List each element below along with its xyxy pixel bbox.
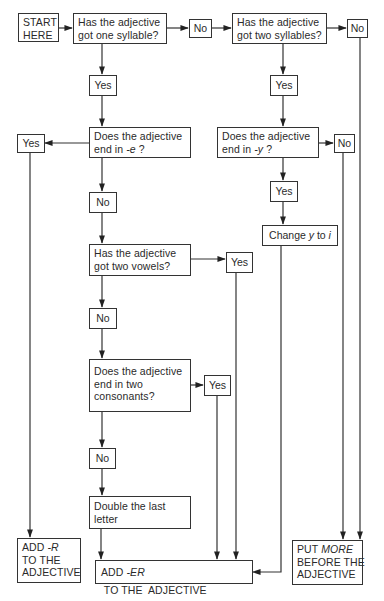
- start-label-line2: HERE: [23, 29, 54, 42]
- question-text: Has the adjective: [78, 16, 162, 29]
- connector-lines: [0, 0, 384, 601]
- question-text-line2: end in -e ?: [94, 143, 186, 156]
- answer-text: Yes: [209, 379, 226, 391]
- result-text: ADJECTIVE: [22, 566, 76, 579]
- answer-text: No: [96, 312, 109, 324]
- question-text: Does the adjective: [94, 365, 186, 378]
- start-node: START HERE: [18, 13, 59, 42]
- question-two-syllables: Has the adjective got two syllables?: [232, 13, 327, 44]
- answer-text: Yes: [275, 185, 292, 197]
- answer-no-end-in-y: No: [334, 134, 355, 153]
- start-label-line1: START: [23, 16, 54, 29]
- result-text-line1: ADD -R: [22, 541, 76, 554]
- question-text: got two syllables?: [237, 29, 322, 42]
- answer-text: No: [194, 22, 207, 34]
- result-add-er: ADD -ER TO THE ADJECTIVE: [95, 560, 253, 584]
- question-text: Has the adjective: [237, 16, 322, 29]
- answer-yes-two-consonants: Yes: [204, 375, 231, 396]
- result-text: TO THE: [22, 554, 76, 567]
- question-text: consonants?: [94, 390, 186, 403]
- question-text: end in two: [94, 378, 186, 391]
- action-text: Double the last: [94, 500, 186, 513]
- result-text-line1: PUT MORE: [297, 543, 358, 556]
- answer-text: No: [351, 22, 364, 34]
- action-change-y-to-i: Change y to i: [262, 225, 338, 246]
- question-text: Has the adjective: [94, 247, 186, 260]
- answer-no-two-vowels: No: [89, 308, 117, 329]
- answer-text: Yes: [22, 137, 39, 149]
- action-double-last-letter: Double the last letter: [89, 496, 191, 529]
- question-text: got two vowels?: [94, 260, 186, 273]
- answer-yes-two-vowels: Yes: [226, 252, 253, 273]
- answer-yes-two-syllables: Yes: [270, 75, 298, 96]
- answer-text: Yes: [231, 256, 248, 268]
- question-text: Does the adjective: [222, 130, 314, 143]
- answer-text: No: [96, 196, 109, 208]
- answer-no-two-syllables: No: [347, 19, 368, 38]
- result-add-r: ADD -R TO THE ADJECTIVE: [17, 538, 81, 583]
- question-one-syllable: Has the adjective got one syllable?: [73, 13, 167, 44]
- answer-no-two-consonants: No: [89, 448, 116, 469]
- question-text: got one syllable?: [78, 29, 162, 42]
- answer-yes-end-in-e: Yes: [17, 134, 45, 153]
- question-text-line2: end in -y ?: [222, 143, 314, 156]
- question-two-consonants: Does the adjective end in two consonants…: [89, 359, 191, 412]
- result-put-more: PUT MORE BEFORE THE ADJECTIVE: [292, 540, 363, 585]
- question-two-vowels: Has the adjective got two vowels?: [89, 244, 191, 276]
- answer-text: No: [96, 452, 109, 464]
- answer-no-one-syllable: No: [189, 19, 212, 38]
- result-text: ADJECTIVE: [297, 568, 358, 581]
- answer-no-end-in-e: No: [89, 192, 117, 213]
- question-text: Does the adjective: [94, 130, 186, 143]
- question-end-in-y: Does the adjective end in -y ?: [217, 127, 319, 158]
- question-end-in-e: Does the adjective end in -e ?: [89, 127, 191, 158]
- answer-text: Yes: [94, 79, 111, 91]
- answer-text: No: [338, 137, 351, 149]
- result-text: BEFORE THE: [297, 556, 358, 569]
- answer-yes-one-syllable: Yes: [89, 75, 117, 96]
- flowchart-canvas: START HERE Has the adjective got one syl…: [0, 0, 384, 601]
- answer-text: Yes: [275, 79, 292, 91]
- answer-yes-end-in-y: Yes: [270, 181, 298, 202]
- action-text: letter: [94, 513, 186, 526]
